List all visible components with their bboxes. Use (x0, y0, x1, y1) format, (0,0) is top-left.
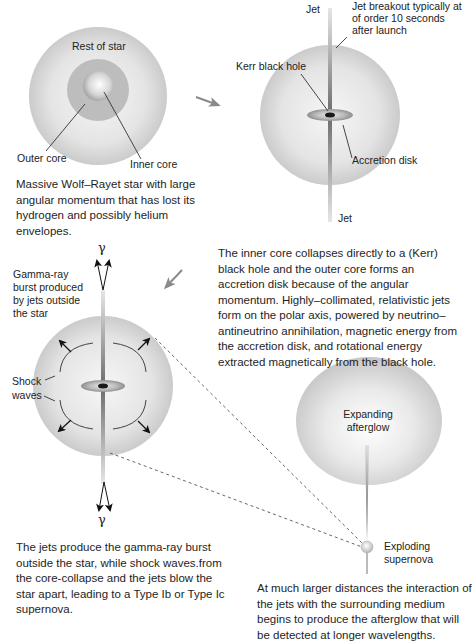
label-accretion-disk: Accretion disk (352, 154, 417, 167)
jet-top (328, 8, 332, 112)
label-exploding-supernova: Exploding supernova (384, 540, 444, 566)
label-kerr-black-hole: Kerr black hole (236, 60, 306, 73)
label-gamma-ray-burst: Gamma-ray burst produced by jets outside… (13, 268, 93, 320)
label-rest-of-star: Rest of star (72, 40, 126, 53)
exploding-supernova (361, 541, 373, 553)
label-outer-core: Outer core (17, 152, 67, 165)
label-jet-breakout: Jet breakout typically at of order 10 se… (352, 0, 462, 36)
label-expanding-afterglow: Expanding afterglow (340, 408, 396, 434)
caption-panel2: The inner core collapses directly to a (… (218, 246, 464, 370)
label-jet-bottom: Jet (338, 212, 352, 225)
flow-arrow-1 (196, 97, 218, 105)
caption-panel1: Massive Wolf–Rayet star with large angul… (16, 177, 221, 239)
gamma-arrows-top (97, 261, 109, 290)
gamma-symbol-bottom: γ (98, 512, 106, 527)
jet-bottom (328, 118, 332, 222)
gamma-symbol-top: γ (98, 240, 106, 255)
gamma-arrows-bottom (99, 482, 110, 510)
caption-panel4: At much larger distances the interaction… (257, 581, 472, 642)
label-jet-top: Jet (306, 3, 320, 16)
kerr-black-hole (325, 113, 335, 118)
collapsed-star (260, 8, 400, 222)
flow-arrow-2 (166, 270, 182, 287)
label-inner-core: Inner core (130, 158, 177, 171)
label-shock-waves: Shock waves (12, 374, 48, 402)
caption-panel3: The jets produce the gamma-ray burst out… (16, 540, 226, 618)
